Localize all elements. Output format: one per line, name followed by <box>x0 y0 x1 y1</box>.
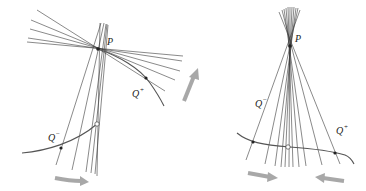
arrow-left-icon <box>315 173 344 183</box>
label-Qminus-left: Q <box>48 132 56 143</box>
label-Qplus-right-sup: + <box>344 123 348 131</box>
left-panel: P Q + Q − <box>22 10 199 186</box>
point-P-left <box>96 47 100 51</box>
label-Qplus-left: Q <box>132 88 140 99</box>
left-curve-lower <box>22 124 97 153</box>
secant-tangent-diagram: P Q + Q − <box>0 0 366 191</box>
label-P-right: P <box>294 33 301 44</box>
arrow-right-icon <box>55 176 89 186</box>
arrow-up-right-icon <box>184 68 199 101</box>
open-point-right <box>286 145 290 149</box>
label-P-left: P <box>106 36 113 47</box>
point-Qplus-right <box>333 151 336 154</box>
point-P-right <box>288 44 292 48</box>
point-Qminus-right <box>251 140 254 143</box>
point-Qminus-left <box>59 146 62 149</box>
right-panel: P Q − Q + <box>237 7 354 183</box>
label-Qminus-left-sup: − <box>56 130 60 138</box>
open-point-left <box>95 122 99 126</box>
label-Qminus-right-sup: − <box>263 96 267 104</box>
left-secant-lines-upper <box>27 10 183 91</box>
label-Qplus-right: Q <box>336 125 344 136</box>
point-Qplus-left <box>144 76 147 79</box>
right-curve <box>237 133 354 164</box>
arrow-right-icon <box>248 172 278 182</box>
label-Qplus-left-sup: + <box>140 86 144 94</box>
label-Qminus-right: Q <box>255 98 263 109</box>
